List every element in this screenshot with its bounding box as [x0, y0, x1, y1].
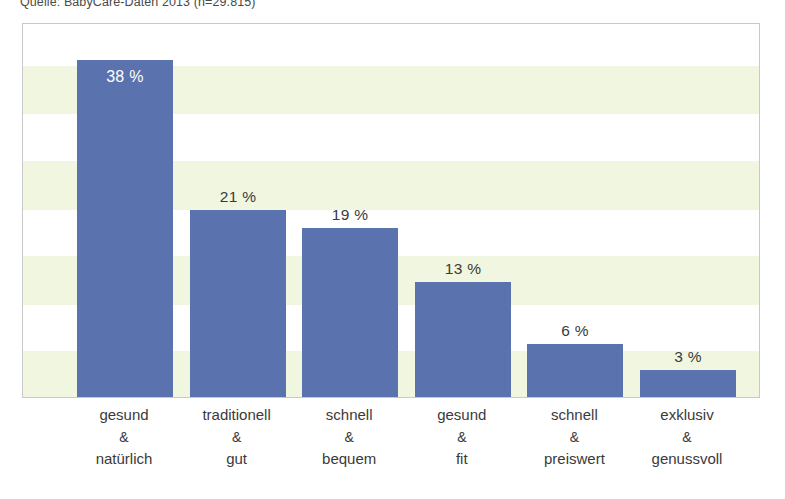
bar — [302, 228, 398, 397]
bar — [527, 344, 623, 397]
bar-value-label: 3 % — [640, 348, 736, 366]
bar-value-label: 6 % — [527, 322, 623, 340]
bars-area: 38 %21 %19 %13 %6 %3 % — [23, 24, 759, 397]
bar — [640, 370, 736, 397]
bar-value-label: 38 % — [77, 68, 173, 86]
x-axis-label-line: genussvoll — [617, 448, 757, 470]
bar: 38 % — [77, 60, 173, 397]
x-axis-label: exklusiv&genussvoll — [617, 404, 757, 470]
chart-plot-frame: 38 %21 %19 %13 %6 %3 % — [22, 23, 760, 398]
bar-value-label: 19 % — [302, 206, 398, 224]
source-caption: Quelle: BabyCare-Daten 2013 (n=29.815) — [20, 0, 256, 9]
chart-page: Quelle: BabyCare-Daten 2013 (n=29.815) 3… — [0, 0, 785, 499]
x-axis-label-line: & — [617, 426, 757, 448]
x-axis-labels: gesund&natürlichtraditionell&gutschnell&… — [22, 404, 760, 484]
bar-value-label: 13 % — [415, 260, 511, 278]
bar — [190, 210, 286, 397]
x-axis-label-line: exklusiv — [617, 404, 757, 426]
bar — [415, 282, 511, 397]
bar-value-label: 21 % — [190, 188, 286, 206]
